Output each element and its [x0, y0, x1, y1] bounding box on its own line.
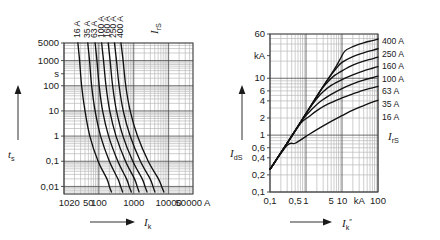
- x-tick-label: 1000: [123, 197, 144, 208]
- y-tick-label: 0,4: [252, 152, 265, 163]
- right-curves: [270, 39, 378, 169]
- left-legend-title-text: IrS: [148, 23, 163, 35]
- curve-250-a: [114, 43, 154, 192]
- x-tick-label: 10: [337, 195, 348, 206]
- y-tick-label: 1000: [38, 55, 59, 66]
- right-legend-title-text: IrS: [387, 130, 399, 145]
- series-label-250-a: 250 A: [382, 49, 404, 59]
- right-y-axis-title: IdS: [229, 85, 245, 162]
- figure-root: 50001000s1001010,10,01 10205010010001000…: [0, 0, 440, 240]
- right-chart-svg: 60kA1064210,60,40,20,1 0,10,51510kA100 4…: [220, 0, 440, 240]
- right-chart: 60kA1064210,60,40,20,1 0,10,51510kA100 4…: [220, 0, 440, 240]
- x-tick-label: 50000 A: [176, 197, 212, 208]
- left-curves: [78, 43, 164, 192]
- series-label-400-a: 400 A: [382, 36, 404, 46]
- right-grid-major: [270, 34, 378, 192]
- curve-160-a: [108, 43, 147, 192]
- y-tick-label: 100: [43, 80, 59, 91]
- left-legend-title: IrS: [148, 23, 163, 35]
- right-y-tick-labels: 60kA1064210,60,40,20,1: [252, 28, 266, 197]
- x-tick-label: 5: [329, 195, 334, 206]
- x-tick-label: 0,1: [263, 195, 276, 206]
- left-x-axis-title-text: Ik: [143, 216, 152, 231]
- y-tick-label: s: [54, 68, 59, 79]
- x-tick-label: kA: [354, 195, 366, 206]
- x-tick-label: 100: [370, 195, 386, 206]
- y-tick-label: 2: [260, 112, 265, 123]
- x-tick-label: 0,5: [289, 195, 302, 206]
- series-label-group: 16 A: [72, 21, 82, 38]
- right-curve-labels: 400 A250 A160 A100 A63 A35 A16 A: [382, 36, 404, 122]
- y-tick-label: 60: [254, 28, 265, 39]
- x-tick-label: 1: [303, 195, 308, 206]
- y-tick-label: 10: [254, 72, 265, 83]
- left-chart-svg: 50001000s1001010,10,01 10205010010001000…: [0, 0, 220, 240]
- series-label-100-a: 100 A: [382, 74, 404, 84]
- curve-400-a: [270, 39, 378, 169]
- right-x-axis-title: Ik″: [290, 217, 352, 232]
- y-tick-label: 10: [48, 105, 59, 116]
- y-tick-label: 1: [260, 129, 265, 140]
- series-label-160-a: 160 A: [382, 61, 404, 71]
- curve-250-a: [270, 49, 378, 170]
- series-label-63-a: 63 A: [382, 86, 399, 96]
- left-x-axis-title: Ik: [90, 216, 152, 231]
- y-tick-label: 0,2: [252, 169, 265, 180]
- right-y-axis-title-text: IdS: [229, 147, 243, 162]
- y-tick-label: 1: [54, 130, 59, 141]
- series-label-16-a: 16 A: [72, 21, 82, 38]
- y-tick-label: kA: [254, 50, 266, 61]
- x-tick-label: 10: [59, 197, 70, 208]
- right-grid-minor: [270, 34, 378, 192]
- right-x-axis-title-text: Ik″: [341, 217, 352, 232]
- y-tick-label: 5000: [38, 37, 59, 48]
- x-tick-label: 20: [69, 197, 80, 208]
- x-tick-label: 100: [91, 197, 107, 208]
- left-x-tick-labels: 10205010010001000050000 A: [59, 197, 211, 208]
- left-y-tick-labels: 50001000s1001010,10,01: [38, 37, 59, 191]
- left-curve-labels: 16 A35 A63 A100 A160 A250 A400 A: [72, 16, 125, 38]
- curve-16-a: [78, 43, 112, 192]
- right-legend-title: IrS: [387, 130, 399, 145]
- series-label-35-a: 35 A: [382, 99, 399, 109]
- right-plot-frame: [270, 34, 378, 192]
- y-tick-label: 0,1: [46, 155, 59, 166]
- series-label-400-a: 400 A: [115, 16, 125, 38]
- left-y-axis-title-text: ts: [8, 148, 15, 163]
- y-tick-label: 0,01: [41, 181, 60, 192]
- y-tick-label: 4: [260, 95, 265, 106]
- right-x-tick-labels: 0,10,51510kA100: [263, 195, 386, 206]
- left-grid-minor: [64, 43, 193, 194]
- left-y-axis-title: ts: [8, 85, 21, 163]
- series-label-group: 400 A: [115, 16, 125, 38]
- left-chart: 50001000s1001010,10,01 10205010010001000…: [0, 0, 220, 240]
- series-label-16-a: 16 A: [382, 112, 399, 122]
- curve-400-a: [121, 43, 164, 192]
